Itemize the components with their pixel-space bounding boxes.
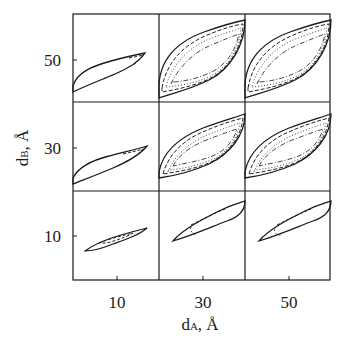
x-tick-30: 30 bbox=[195, 294, 212, 311]
y-tick-10: 10 bbox=[44, 228, 61, 245]
panel-dA10-dB50 bbox=[73, 53, 145, 92]
y-tick-30: 30 bbox=[44, 140, 61, 157]
panel-dA50-dB50 bbox=[245, 20, 331, 98]
x-tick-50: 50 bbox=[281, 294, 298, 311]
panel-dA50-dB10 bbox=[259, 201, 331, 241]
x-tick-10: 10 bbox=[109, 294, 126, 311]
panel-grid bbox=[73, 14, 330, 280]
y-axis-label: dB, Å bbox=[14, 130, 31, 167]
panel-dA30-dB10 bbox=[173, 201, 245, 241]
y-axis-label-main: d bbox=[13, 158, 32, 167]
panel-dA30-dB30 bbox=[159, 114, 245, 178]
x-axis-label-sep: , bbox=[198, 315, 207, 334]
x-axis-label-unit: Å bbox=[206, 315, 218, 334]
panel-dA30-dB50 bbox=[159, 20, 245, 98]
y-axis-label-sub: B bbox=[18, 150, 30, 157]
y-axis-label-sep: , bbox=[13, 142, 32, 151]
panel-dA10-dB30 bbox=[73, 146, 147, 184]
y-tick-50: 50 bbox=[44, 52, 61, 69]
x-axis-label-main: d bbox=[181, 315, 190, 334]
panel-dA10-dB10 bbox=[85, 228, 147, 251]
x-axis-label: dA, Å bbox=[181, 316, 218, 333]
panel-dA50-dB30 bbox=[245, 114, 331, 178]
y-axis-label-unit: Å bbox=[13, 130, 32, 142]
